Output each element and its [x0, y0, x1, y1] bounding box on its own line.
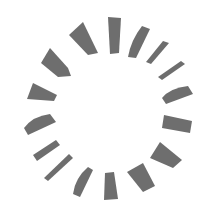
spinner-segment: [127, 163, 155, 192]
spinner-segment: [162, 115, 192, 133]
spinner-segment: [44, 154, 73, 181]
spinner-segment: [128, 26, 150, 58]
spinner-segment: [146, 41, 169, 64]
spinner-segment: [27, 83, 57, 101]
spinner-segment: [73, 167, 93, 197]
spinner-segment: [33, 140, 60, 161]
spinner-segment: [108, 17, 121, 54]
spinner-segment: [104, 172, 118, 200]
spinner-segment: [150, 142, 182, 168]
spinner-segment: [158, 61, 185, 80]
spinner-segment: [162, 86, 193, 104]
spinner-segment: [41, 48, 71, 77]
spinner-segment: [69, 22, 98, 55]
spinner-segment: [24, 114, 56, 135]
spinner-graphic: [0, 0, 208, 217]
spinner-icon: [0, 0, 208, 217]
